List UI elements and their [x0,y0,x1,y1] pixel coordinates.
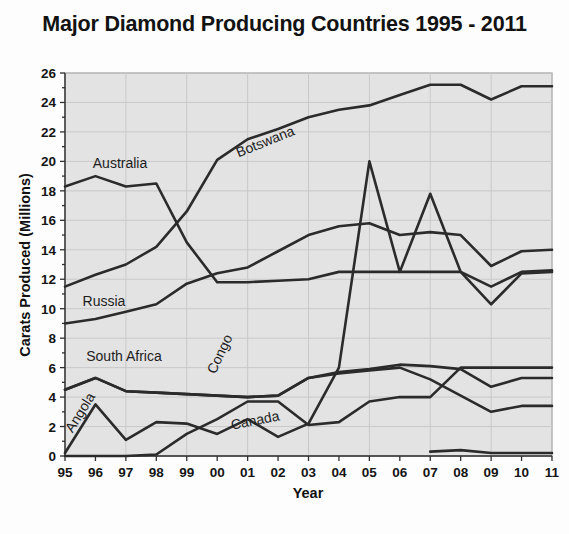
y-tick-label: 2 [48,420,56,435]
x-tick-label: 11 [545,465,560,480]
y-axis-ticks [60,73,65,456]
y-tick-label: 26 [41,66,57,81]
y-tick-label: 16 [41,213,57,228]
y-tick-label: 14 [41,243,57,258]
x-tick-label: 99 [179,465,194,480]
x-tick-label: 02 [271,465,286,480]
x-tick-label: 04 [331,465,347,480]
x-tick-label: 09 [484,465,499,480]
x-tick-label: 03 [301,465,317,480]
y-axis-tick-labels: 02468101214161820222426 [41,66,57,464]
y-tick-label: 12 [41,272,56,287]
chart-card: Major Diamond Producing Countries 1995 -… [0,0,569,534]
x-tick-label: 00 [210,465,225,480]
series-label-south-africa: South Africa [86,348,162,364]
x-tick-label: 01 [240,465,256,480]
x-tick-label: 08 [453,465,469,480]
y-axis-title: Carats Produced (Millions) [17,173,33,357]
y-tick-label: 10 [41,302,56,317]
y-tick-label: 6 [48,361,56,376]
y-tick-label: 8 [48,331,56,346]
x-tick-label: 97 [118,465,133,480]
y-tick-label: 0 [48,449,56,464]
line-chart-plot: 02468101214161820222426 9596979899000102… [0,0,569,534]
x-axis-ticks [65,456,552,461]
series-label-australia: Australia [93,155,148,171]
x-axis-tick-labels: 9596979899000102030405060708091011 [57,465,559,480]
x-tick-label: 06 [392,465,408,480]
y-tick-label: 18 [41,184,57,199]
x-tick-label: 96 [88,465,104,480]
y-tick-label: 20 [41,154,56,169]
x-tick-label: 05 [362,465,378,480]
y-tick-label: 24 [41,95,57,110]
x-tick-label: 10 [514,465,529,480]
y-tick-label: 22 [41,125,56,140]
x-tick-label: 98 [149,465,165,480]
series-label-russia: Russia [83,293,126,309]
x-tick-label: 07 [423,465,438,480]
y-tick-label: 4 [48,390,56,405]
x-tick-label: 95 [57,465,73,480]
x-axis-title: Year [293,485,324,501]
